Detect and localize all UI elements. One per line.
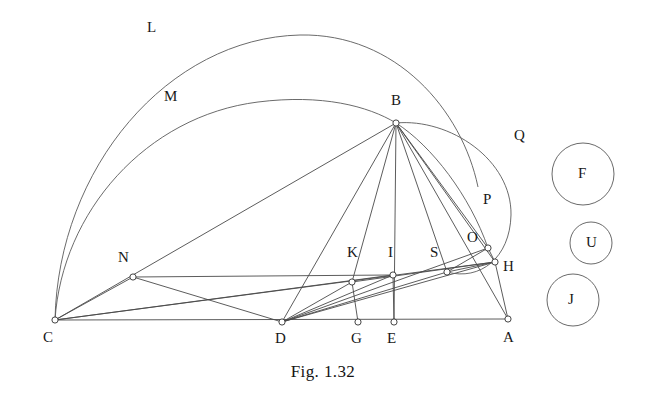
vertices-layer xyxy=(52,120,511,325)
vertex-h xyxy=(492,259,498,265)
segment-B-S xyxy=(396,123,447,272)
vertex-n xyxy=(130,274,136,280)
geometry-canvas xyxy=(0,0,646,410)
point-label-c: C xyxy=(43,330,53,345)
segment-B-E xyxy=(394,123,396,322)
figure-container: ABCDEGHIKNOSLMQPFUJ Fig. 1.32 xyxy=(0,0,646,410)
point-label-e: E xyxy=(387,331,396,346)
segment-C-N xyxy=(55,277,133,320)
vertex-i xyxy=(390,272,396,278)
segment-B-D xyxy=(282,123,396,322)
arc-label-l: L xyxy=(147,20,156,35)
vertex-a xyxy=(505,316,511,322)
arc-M xyxy=(55,99,396,320)
arc-label-m: M xyxy=(164,89,177,104)
point-label-k: K xyxy=(347,245,358,260)
vertex-g xyxy=(355,319,361,325)
segment-C-I xyxy=(55,275,393,320)
vertex-s xyxy=(444,269,450,275)
segment-B-H xyxy=(396,123,495,262)
point-label-b: B xyxy=(391,93,401,108)
arc-label-q: Q xyxy=(514,128,525,143)
figure-caption: Fig. 1.32 xyxy=(0,362,646,382)
vertex-o xyxy=(485,245,491,251)
segment-N-D xyxy=(133,277,282,322)
vertex-k xyxy=(349,279,355,285)
arc-Q xyxy=(396,123,511,274)
circle-label-u: U xyxy=(586,235,597,250)
vertex-e xyxy=(391,319,397,325)
point-label-o: O xyxy=(467,230,478,245)
point-label-g: G xyxy=(351,331,362,346)
arcs-layer xyxy=(55,35,511,320)
vertex-d xyxy=(279,319,285,325)
segment-B-A xyxy=(396,123,508,319)
point-label-h: H xyxy=(503,259,514,274)
vertex-c xyxy=(52,317,58,323)
segments-layer xyxy=(55,123,508,322)
circle-label-f: F xyxy=(578,166,586,181)
circle-label-j: J xyxy=(568,292,574,307)
point-label-d: D xyxy=(275,331,286,346)
point-label-s: S xyxy=(430,245,438,260)
segment-D-H xyxy=(282,262,495,322)
point-label-i: I xyxy=(388,245,393,260)
segment-D-O xyxy=(282,248,488,322)
segment-S-O xyxy=(447,248,488,272)
point-label-n: N xyxy=(118,250,129,265)
arc-label-p: P xyxy=(483,192,491,207)
point-label-a: A xyxy=(503,330,514,345)
vertex-b xyxy=(393,120,399,126)
